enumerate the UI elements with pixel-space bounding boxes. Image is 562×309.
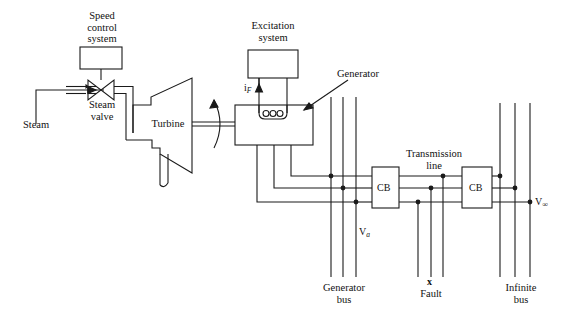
- speed-control-system-box: [80, 47, 122, 69]
- schematic-svg: [0, 0, 562, 309]
- field-current-label: iF: [244, 82, 251, 95]
- field-current-leads: [256, 78, 288, 113]
- turbine-label: Turbine: [142, 118, 194, 130]
- cb-right-to-infinite-bus-leads: [492, 176, 530, 202]
- cb-right-label: CB: [469, 182, 482, 193]
- fault-lines: [418, 176, 443, 277]
- shaft-rotation-arrow-icon: [210, 100, 220, 148]
- generator-bus-label: Generatorbus: [313, 282, 375, 305]
- generator-leader-line: [304, 80, 348, 110]
- terminal-voltage-subscript: a: [366, 230, 370, 239]
- transmission-line-label: Transmissionline: [398, 148, 470, 171]
- power-system-diagram: Speedcontrolsystem Steam Steamvalve Turb…: [0, 0, 562, 309]
- generator-output-leads: [257, 145, 356, 202]
- infinite-bus-voltage-label: V∞: [535, 196, 548, 209]
- fault-label: Fault: [408, 288, 454, 300]
- field-winding-coil-icon: [259, 105, 287, 119]
- excitation-system-box: [248, 50, 298, 78]
- generator-arrow-icon: [304, 103, 313, 110]
- turbine-generator-shaft: [192, 122, 235, 126]
- field-current-subscript: F: [247, 86, 252, 95]
- infinite-bus-label: Infinitebus: [494, 282, 548, 305]
- steam-label: Steam: [8, 119, 64, 131]
- bus-to-cb-left-leads: [331, 176, 372, 202]
- terminal-voltage-label: Va: [359, 226, 370, 239]
- speed-control-system-label: Speedcontrolsystem: [70, 10, 134, 45]
- steam-arrow-icon: [88, 87, 96, 94]
- excitation-system-label: Excitationsystem: [238, 20, 308, 43]
- field-current-arrow-icon: [256, 84, 263, 92]
- steam-valve-label: Steamvalve: [74, 99, 130, 122]
- generator-label: Generator: [322, 68, 394, 80]
- infinite-bus-voltage-subscript: ∞: [542, 200, 548, 209]
- cb-left-label: CB: [377, 182, 390, 193]
- fault-mark-icon: x: [427, 276, 432, 287]
- turbine-body: [126, 78, 192, 187]
